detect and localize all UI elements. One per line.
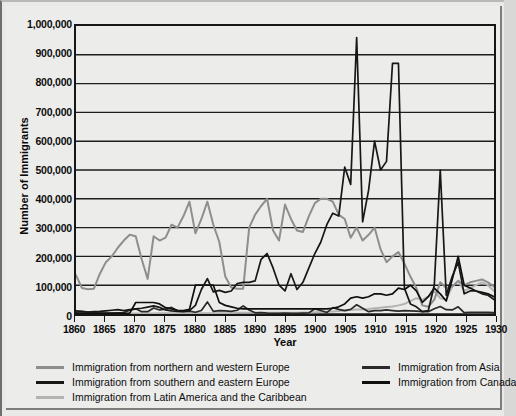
y-tick-label: 100,000 xyxy=(6,281,72,293)
x-tick-label: 1930 xyxy=(485,323,507,335)
plot-area xyxy=(74,24,496,316)
x-tick-label: 1870 xyxy=(123,323,145,335)
x-tick-mark xyxy=(104,316,105,322)
x-tick-mark xyxy=(375,316,376,322)
legend-column-right: Immigration from AsiaImmigration from Ca… xyxy=(362,361,516,391)
y-tick-label: 900,000 xyxy=(6,47,72,59)
legend-line-swatch-icon xyxy=(362,381,390,384)
x-tick-label: 1875 xyxy=(153,323,175,335)
y-tick-label: 200,000 xyxy=(6,252,72,264)
x-tick-label: 1865 xyxy=(93,323,115,335)
legend-item-label: Immigration from northern and western Eu… xyxy=(72,362,290,373)
x-tick-label: 1885 xyxy=(214,323,236,335)
y-tick-label: 800,000 xyxy=(6,76,72,88)
legend-item: Immigration from Latin America and the C… xyxy=(36,391,307,404)
x-tick-label: 1880 xyxy=(183,323,205,335)
x-tick-mark xyxy=(164,316,165,322)
legend-item-label: Immigration from southern and eastern Eu… xyxy=(72,377,290,388)
y-tick-label: 500,000 xyxy=(6,164,72,176)
legend-item: Immigration from Asia xyxy=(362,361,516,374)
figure-inner-panel: 1,000,000900,000800,000700,000600,000500… xyxy=(6,6,502,410)
y-tick-label: 0 xyxy=(6,310,72,322)
legend-item-label: Immigration from Latin America and the C… xyxy=(72,392,307,403)
legend-item: Immigration from Canada xyxy=(362,376,516,389)
legend-item: Immigration from southern and eastern Eu… xyxy=(36,376,307,389)
x-tick-mark xyxy=(315,316,316,322)
y-axis-tick-labels: 1,000,000900,000800,000700,000600,000500… xyxy=(6,6,72,354)
legend-item-label: Immigration from Asia xyxy=(398,362,500,373)
x-tick-label: 1920 xyxy=(425,323,447,335)
y-axis-title: Number of Immigrants xyxy=(18,76,30,276)
x-tick-mark xyxy=(74,316,75,322)
x-tick-mark xyxy=(345,316,346,322)
x-tick-mark xyxy=(406,316,407,322)
series-line xyxy=(76,38,494,312)
legend-line-swatch-icon xyxy=(36,366,64,369)
legend-item-label: Immigration from Canada xyxy=(398,377,516,388)
x-tick-mark xyxy=(225,316,226,322)
x-tick-label: 1925 xyxy=(455,323,477,335)
x-tick-mark xyxy=(134,316,135,322)
chart-legend: Immigration from northern and western Eu… xyxy=(36,361,496,407)
legend-item: Immigration from northern and western Eu… xyxy=(36,361,307,374)
x-tick-label: 1910 xyxy=(364,323,386,335)
x-tick-label: 1890 xyxy=(244,323,266,335)
plot-region: 1,000,000900,000800,000700,000600,000500… xyxy=(6,6,510,354)
x-axis-tick-labels: 1860186518701875188018851890189519001905… xyxy=(74,319,496,337)
x-tick-mark xyxy=(255,316,256,322)
x-tick-mark xyxy=(285,316,286,322)
chart-canvas xyxy=(76,26,494,314)
y-tick-label: 300,000 xyxy=(6,222,72,234)
y-tick-label: 600,000 xyxy=(6,135,72,147)
x-tick-label: 1915 xyxy=(394,323,416,335)
x-tick-label: 1905 xyxy=(334,323,356,335)
y-tick-label: 400,000 xyxy=(6,193,72,205)
x-tick-mark xyxy=(436,316,437,322)
x-tick-label: 1860 xyxy=(63,323,85,335)
x-tick-mark xyxy=(466,316,467,322)
legend-column-left: Immigration from northern and western Eu… xyxy=(36,361,307,406)
legend-line-swatch-icon xyxy=(36,396,64,399)
x-axis-title: Year xyxy=(74,336,496,348)
y-tick-label: 1,000,000 xyxy=(6,18,72,30)
x-tick-label: 1895 xyxy=(274,323,296,335)
x-tick-mark xyxy=(496,316,497,322)
y-tick-label: 700,000 xyxy=(6,106,72,118)
legend-line-swatch-icon xyxy=(36,381,64,384)
x-tick-mark xyxy=(195,316,196,322)
x-tick-label: 1900 xyxy=(304,323,326,335)
legend-line-swatch-icon xyxy=(362,366,390,369)
